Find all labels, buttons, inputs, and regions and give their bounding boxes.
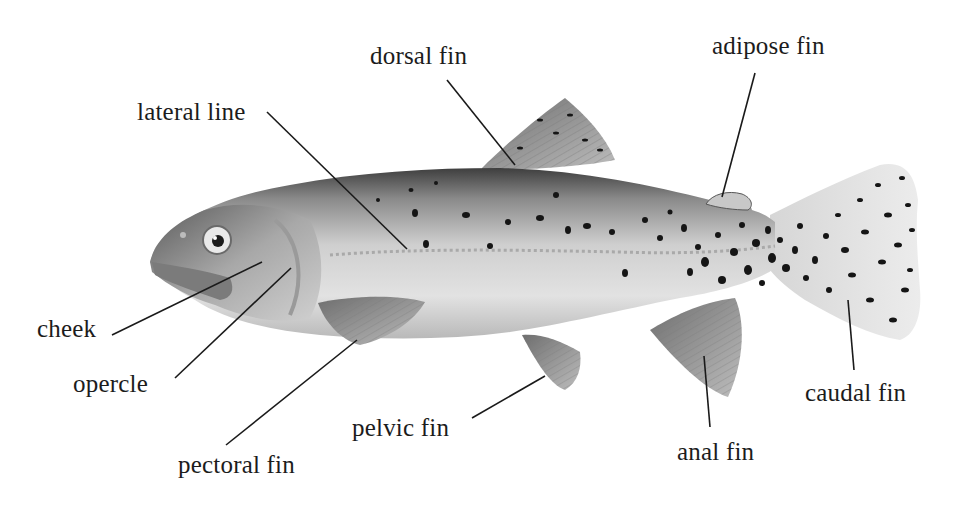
- label-pectoral-fin: pectoral fin: [178, 451, 295, 479]
- trout-illustration: [0, 0, 970, 515]
- anal-fin-shape: [650, 298, 742, 397]
- leader-line-pectoral-fin: [226, 340, 357, 445]
- fish-anatomy-diagram: dorsal fin adipose fin lateral line chee…: [0, 0, 970, 515]
- label-adipose-fin: adipose fin: [712, 32, 825, 60]
- label-caudal-fin: caudal fin: [805, 379, 906, 407]
- label-dorsal-fin: dorsal fin: [370, 42, 467, 70]
- label-anal-fin: anal fin: [677, 438, 754, 466]
- pelvic-fin-shape: [522, 335, 580, 390]
- label-lateral-line: lateral line: [137, 98, 246, 126]
- label-opercle: opercle: [73, 370, 148, 398]
- leader-line-dorsal-fin: [447, 80, 515, 165]
- leader-line-adipose-fin: [722, 73, 755, 197]
- dorsal-fin-shape: [482, 98, 615, 170]
- label-cheek: cheek: [37, 315, 96, 343]
- label-pelvic-fin: pelvic fin: [352, 414, 449, 442]
- leader-line-pelvic-fin: [472, 376, 545, 418]
